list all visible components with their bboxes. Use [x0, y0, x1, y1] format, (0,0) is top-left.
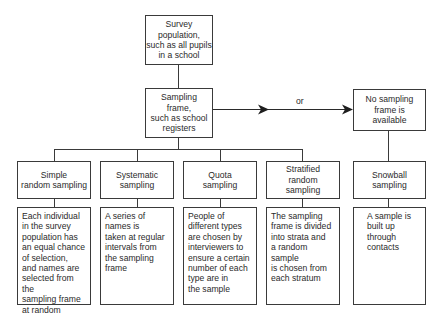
survey-population-box: Survey population, such as all pupils in…: [145, 15, 213, 65]
survey-population-text: Survey population, such as all pupils in…: [146, 19, 211, 61]
sampling-frame-box: Sampling frame, such as school registers: [145, 88, 213, 138]
method-desc-simple-random: Each individual in the survey population…: [17, 207, 91, 305]
method-title-snowball: Snowball sampling: [353, 161, 426, 199]
sampling-frame-text: Sampling frame, such as school registers: [151, 92, 208, 134]
method-desc-snowball: A sample is built up through contacts: [353, 207, 426, 305]
method-title-quota: Quota sampling: [183, 161, 257, 199]
method-title-systematic: Systematic sampling: [100, 161, 174, 199]
method-desc-stratified: The sampling frame is divided into strat…: [266, 207, 340, 305]
no-sampling-frame-text: No sampling frame is available: [366, 94, 414, 125]
or-label: or: [296, 96, 304, 106]
method-desc-systematic: A series of names is taken at regular in…: [100, 207, 174, 305]
method-title-simple-random: Simple random sampling: [17, 161, 91, 199]
no-sampling-frame-box: No sampling frame is available: [353, 89, 426, 131]
method-title-stratified: Stratified random sampling: [266, 161, 340, 199]
method-desc-quota: People of different types are chosen by …: [183, 207, 257, 305]
